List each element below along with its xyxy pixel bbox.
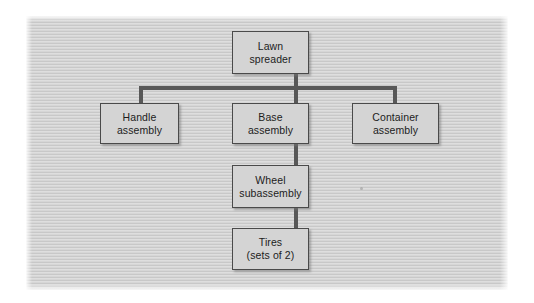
node-label-line1: Wheel	[255, 174, 285, 187]
node-label-line1: Tires	[259, 236, 282, 249]
node-label-line1: Base	[258, 111, 282, 124]
node-label-line1: Lawn	[258, 40, 284, 53]
diagram-panel: Lawn spreader Handle assembly Base assem…	[26, 16, 508, 290]
connector-wheel-to-tires	[294, 207, 298, 229]
node-label-line2: assembly	[248, 124, 293, 137]
node-label-line2: assembly	[117, 124, 162, 137]
node-handle-assembly: Handle assembly	[100, 103, 179, 144]
node-label-line2: assembly	[373, 124, 418, 137]
scan-artifact-speck	[360, 187, 363, 190]
node-wheel-subassembly: Wheel subassembly	[232, 165, 309, 208]
node-label-line2: subassembly	[239, 187, 301, 200]
connector-horizontal-bus	[139, 86, 397, 90]
node-tires: Tires (sets of 2)	[232, 228, 309, 270]
node-base-assembly: Base assembly	[232, 103, 309, 144]
node-container-assembly: Container assembly	[352, 103, 439, 144]
node-label-line1: Container	[372, 111, 418, 124]
node-label-line1: Handle	[123, 111, 157, 124]
connector-base-to-wheel	[294, 143, 298, 167]
node-label-line2: spreader	[249, 53, 291, 66]
node-lawn-spreader: Lawn spreader	[232, 31, 309, 74]
node-label-line2: (sets of 2)	[247, 249, 295, 262]
